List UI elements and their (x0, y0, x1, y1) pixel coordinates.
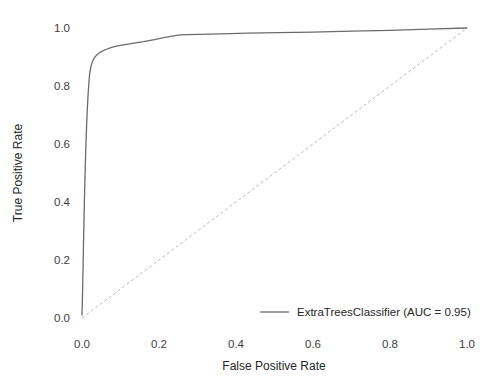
x-tick-label: 0.0 (74, 338, 90, 350)
y-tick-label: 0.6 (54, 138, 70, 150)
x-tick-label: 1.0 (459, 338, 475, 350)
y-tick-label: 0.0 (54, 312, 70, 324)
x-tick-label: 0.6 (305, 338, 321, 350)
x-tick-label: 0.8 (382, 338, 398, 350)
y-tick-label: 0.2 (54, 254, 70, 266)
y-tick-label: 0.4 (54, 196, 71, 208)
roc-curve-figure: 0.00.20.40.60.81.0 0.00.20.40.60.81.0 Tr… (0, 0, 494, 388)
y-tick-label: 1.0 (54, 22, 70, 34)
x-axis-ticks: 0.00.20.40.60.81.0 (74, 338, 475, 350)
y-axis-ticks: 0.00.20.40.60.81.0 (54, 22, 71, 324)
y-tick-label: 0.8 (54, 80, 70, 92)
plot-canvas: 0.00.20.40.60.81.0 0.00.20.40.60.81.0 Tr… (0, 0, 494, 388)
x-tick-label: 0.4 (228, 338, 245, 350)
legend-label: ExtraTreesClassifier (AUC = 0.95) (297, 306, 471, 318)
y-axis-title: True Positive Rate (11, 124, 25, 223)
x-axis-title: False Positive Rate (222, 359, 326, 373)
x-tick-label: 0.2 (151, 338, 167, 350)
